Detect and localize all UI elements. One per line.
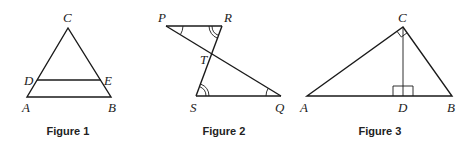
caption-figure-1: Figure 1 [47, 125, 90, 137]
figure-3: C A D B Figure 3 [299, 10, 455, 137]
label-s: S [190, 100, 197, 115]
angle-mark-p [181, 26, 184, 35]
triangle-abc [307, 27, 452, 96]
label-a: A [21, 100, 30, 115]
label-d: D [23, 73, 34, 88]
caption-figure-2: Figure 2 [203, 125, 246, 137]
label-q: Q [275, 100, 285, 115]
label-p: P [157, 10, 166, 25]
label-b: B [447, 100, 455, 115]
angle-mark-q [266, 88, 268, 96]
right-angle-mark-c [397, 31, 407, 37]
label-r: R [223, 10, 232, 25]
label-e: E [103, 73, 112, 88]
label-t: T [200, 52, 208, 67]
geometry-figures: C D E A B Figure 1 P R T S Q Figure 2 C … [0, 0, 475, 144]
label-a: A [299, 100, 308, 115]
label-c: C [398, 10, 407, 25]
label-d: D [397, 100, 408, 115]
caption-figure-3: Figure 3 [359, 125, 402, 137]
angle-mark-r-inner [212, 26, 219, 35]
figure-2: P R T S Q Figure 2 [157, 10, 285, 137]
label-c: C [63, 10, 72, 25]
figure-1: C D E A B Figure 1 [21, 10, 116, 137]
triangle-abc [27, 28, 111, 97]
angle-mark-s-inner [200, 87, 207, 96]
label-b: B [108, 100, 116, 115]
segment-pq [166, 26, 281, 96]
